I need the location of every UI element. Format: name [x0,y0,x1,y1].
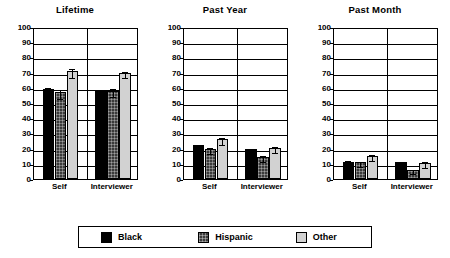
error-bar-cap [422,168,428,169]
legend-item: Hispanic [176,232,273,243]
error-bar-cap [195,149,201,150]
error-bar-cap [207,154,213,155]
error-bar-cap [98,91,104,92]
y-tick-label: 40 [151,115,181,123]
y-tick-label: 70 [151,70,181,78]
y-tick-label: 10 [301,161,331,169]
legend-item: Other [274,232,371,243]
x-tick-label: Interviewer [391,182,433,191]
panel-title: Past Year [150,4,300,15]
error-bar-cap [369,155,375,156]
error-bar-cap [398,167,404,168]
legend-swatch-other [296,232,307,243]
chart-panel: Past Month0102030405060708090100SelfInte… [300,0,450,200]
error-bar-cap [345,166,351,167]
x-axis: SelfInterviewer [33,182,138,196]
error-bar-cap [357,167,363,168]
y-tick-label: 20 [1,146,31,154]
bar [43,89,55,179]
y-tick-label: 50 [301,100,331,108]
error-bar-cap [219,145,225,146]
error-bar-cap [410,174,416,175]
error-bar-cap [45,94,51,95]
bar [55,92,67,179]
y-tick-label: 20 [151,146,181,154]
error-bar-cap [57,99,63,100]
x-axis: SelfInterviewer [333,182,438,196]
y-tick-label: 80 [1,54,31,62]
plot-area [183,28,288,180]
bar-group-container [334,29,437,179]
x-axis: SelfInterviewer [183,182,288,196]
error-bar-cap [122,78,128,79]
bar [67,71,79,179]
y-tick-label: 80 [151,54,181,62]
error-bar-cap [57,90,63,91]
y-tick-label: 0 [301,176,331,184]
error-bar-cap [272,147,278,148]
y-tick-label: 50 [151,100,181,108]
y-tick-label: 40 [1,115,31,123]
y-tick-label: 50 [1,100,31,108]
error-bar-cap [219,138,225,139]
chart-legend: BlackHispanicOther [78,226,372,248]
error-bar-cap [260,162,266,163]
panel-row: Lifetime0102030405060708090100SelfInterv… [0,0,450,200]
error-bar [60,90,61,99]
y-tick-label: 10 [151,161,181,169]
y-tick-label: 70 [301,70,331,78]
error-bar-cap [357,162,363,163]
legend-swatch-hispanic [198,232,209,243]
y-tick-label: 10 [1,161,31,169]
y-tick-label: 90 [151,39,181,47]
legend-label: Other [313,232,337,242]
y-tick-label: 80 [301,54,331,62]
y-tick-label: 60 [1,85,31,93]
error-bar-cap [122,72,128,73]
y-tick-label: 30 [1,130,31,138]
error-bar-cap [248,154,254,155]
y-tick-label: 60 [301,85,331,93]
y-tick-label: 100 [151,24,181,32]
plot-area [33,28,138,180]
y-tick-label: 40 [301,115,331,123]
y-tick-mark [330,180,333,181]
error-bar-cap [45,88,51,89]
y-tick-label: 90 [301,39,331,47]
chart-panel: Lifetime0102030405060708090100SelfInterv… [0,0,150,200]
figure: Lifetime0102030405060708090100SelfInterv… [0,0,450,258]
y-tick-label: 0 [1,176,31,184]
y-tick-label: 30 [301,130,331,138]
error-bar-cap [248,149,254,150]
error-bar-cap [260,156,266,157]
y-axis: 0102030405060708090100 [150,28,181,180]
error-bar [113,89,114,97]
error-bar-cap [207,148,213,149]
error-bar-cap [98,95,104,96]
error-bar-cap [422,162,428,163]
bar-group-container [34,29,137,179]
legend-label: Hispanic [215,232,253,242]
error-bar-cap [345,161,351,162]
error-bar-cap [369,161,375,162]
bar [107,91,119,179]
error-bar [72,69,73,78]
error-bar-cap [110,97,116,98]
y-tick-label: 30 [151,130,181,138]
bar [119,73,131,179]
bar [95,91,107,179]
x-tick-label: Self [52,182,67,191]
y-tick-mark [30,180,33,181]
legend-swatch-black [101,232,112,243]
y-tick-label: 60 [151,85,181,93]
y-axis: 0102030405060708090100 [0,28,31,180]
error-bar-cap [69,69,75,70]
legend-label: Black [118,232,142,242]
error-bar-cap [110,89,116,90]
y-tick-mark [180,180,183,181]
chart-panel: Past Year0102030405060708090100SelfInter… [150,0,300,200]
x-tick-label: Interviewer [241,182,283,191]
error-bar-cap [410,170,416,171]
y-tick-label: 90 [1,39,31,47]
y-tick-label: 0 [151,176,181,184]
